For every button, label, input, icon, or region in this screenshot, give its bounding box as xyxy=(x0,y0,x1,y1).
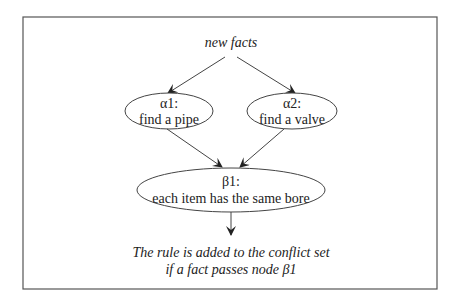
node-alpha2: α2: find a valve xyxy=(247,93,337,129)
edge-facts-alpha1 xyxy=(168,57,225,93)
node-alpha1: α1: find a pipe xyxy=(125,93,213,129)
edge-alpha1-beta1 xyxy=(167,129,222,167)
node-alpha2-title: α2: xyxy=(283,96,301,111)
output-text-line1: The rule is added to the conflict set xyxy=(132,245,330,260)
node-alpha1-title: α1: xyxy=(160,96,178,111)
rete-diagram: new facts α1: find a pipe α2: find a val… xyxy=(0,0,462,308)
node-beta1-title: β1: xyxy=(222,174,240,189)
node-alpha2-description: find a valve xyxy=(259,112,325,127)
node-alpha1-description: find a pipe xyxy=(139,112,199,127)
edge-facts-alpha2 xyxy=(237,57,295,93)
input-label: new facts xyxy=(205,35,258,50)
node-beta1-description: each item has the same bore xyxy=(152,191,309,206)
output-text-line2: if a fact passes node β1 xyxy=(165,262,296,277)
edge-alpha2-beta1 xyxy=(240,129,284,167)
node-beta1: β1: each item has the same bore xyxy=(137,168,325,212)
